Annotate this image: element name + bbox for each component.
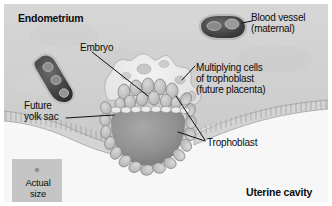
label-actual-size-line2: size [30,188,46,199]
label-blood-vessel: Blood vessel(maternal) [251,12,305,34]
blood-vessel-upper-right [200,15,246,39]
label-endometrium: Endometrium [18,13,83,25]
label-future-yolk-line1: Future [24,100,52,111]
label-embryo: Embryo [80,42,113,53]
label-uterine-cavity: Uterine cavity [246,187,312,199]
label-blood-vessel-line1: Blood vessel [251,12,305,23]
implantation-diagram-figure: Endometrium Blood vessel(maternal) Embry… [0,0,332,206]
diagram-canvas: Endometrium Blood vessel(maternal) Embry… [4,4,328,202]
label-multiplying-line2: of trophoblast [196,73,254,84]
label-multiplying-line1: Multiplying cells [196,62,263,73]
label-multiplying-cells: Multiplying cellsof trophoblast(future p… [196,62,265,96]
label-blood-vessel-line2: (maternal) [251,23,295,34]
label-actual-size-line1: Actual [25,177,50,188]
label-future-yolk-line2: yolk sac [24,111,59,122]
label-trophoblast: Trophoblast [207,137,257,148]
label-multiplying-line3: (future placenta) [196,84,265,95]
label-future-yolk-sac: Futureyolk sac [24,100,59,122]
label-actual-size: Actualsize [18,178,58,199]
actual-size-dot [35,168,39,172]
